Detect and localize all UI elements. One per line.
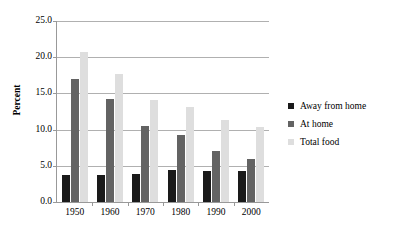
legend-item: Total food bbox=[288, 133, 393, 151]
x-axis-tick-label: 1980 bbox=[161, 207, 201, 217]
bar-1960-series-2 bbox=[115, 74, 123, 202]
x-axis-tick-label: 1970 bbox=[125, 207, 165, 217]
legend-swatch-icon bbox=[288, 103, 294, 109]
bar-1970-series-1 bbox=[141, 126, 149, 202]
y-axis-tickmark bbox=[53, 93, 57, 94]
legend-swatch-icon bbox=[288, 121, 294, 127]
bar-group-1990 bbox=[203, 21, 229, 202]
legend-item: Away from home bbox=[288, 97, 393, 115]
gridline bbox=[57, 57, 269, 58]
legend-label: At home bbox=[300, 119, 333, 129]
x-axis-tickmark bbox=[234, 202, 235, 206]
legend-swatch-icon bbox=[288, 139, 294, 145]
chart-legend: Away from homeAt homeTotal food bbox=[288, 97, 393, 151]
x-axis-tick-label: 1950 bbox=[55, 207, 95, 217]
gridline bbox=[57, 93, 269, 94]
bar-1960-series-0 bbox=[97, 175, 105, 202]
gridline bbox=[57, 166, 269, 167]
x-axis-tick-label: 1990 bbox=[196, 207, 236, 217]
bar-2000-series-2 bbox=[256, 127, 264, 202]
y-axis-tick-labels: 0.05.010.015.020.025.0 bbox=[16, 0, 52, 237]
legend-label: Away from home bbox=[300, 101, 366, 111]
y-axis-tick-label: 5.0 bbox=[18, 160, 52, 170]
y-axis-tickmark bbox=[53, 130, 57, 131]
bar-group-1980 bbox=[168, 21, 194, 202]
y-axis-tick-label: 15.0 bbox=[18, 87, 52, 97]
bar-1950-series-0 bbox=[62, 175, 70, 203]
y-axis-tick-label: 0.0 bbox=[18, 196, 52, 206]
y-axis-tick-label: 20.0 bbox=[18, 51, 52, 61]
bar-2000-series-0 bbox=[238, 171, 246, 202]
bar-1980-series-2 bbox=[186, 107, 194, 202]
bar-group-1970 bbox=[132, 21, 158, 202]
y-axis-tick-label: 25.0 bbox=[18, 15, 52, 25]
bar-1990-series-2 bbox=[221, 120, 229, 202]
x-axis-tick-label: 1960 bbox=[90, 207, 130, 217]
bar-1950-series-1 bbox=[71, 79, 79, 202]
y-axis-tickmark bbox=[53, 166, 57, 167]
x-axis-tickmark bbox=[163, 202, 164, 206]
y-axis-tickmark bbox=[53, 202, 57, 203]
bar-group-1950 bbox=[62, 21, 88, 202]
bar-1970-series-0 bbox=[132, 174, 140, 202]
legend-item: At home bbox=[288, 115, 393, 133]
bar-1990-series-1 bbox=[212, 151, 220, 202]
bar-1980-series-1 bbox=[177, 135, 185, 202]
bar-1960-series-1 bbox=[106, 99, 114, 202]
x-axis-tick-label: 2000 bbox=[231, 207, 271, 217]
bar-2000-series-1 bbox=[247, 159, 255, 202]
gridline bbox=[57, 21, 269, 22]
y-axis-tick-label: 10.0 bbox=[18, 124, 52, 134]
bar-1970-series-2 bbox=[150, 100, 158, 202]
y-axis-tickmark bbox=[53, 57, 57, 58]
plot-area: 195019601970198019902000 bbox=[56, 21, 269, 203]
bar-group-1960 bbox=[97, 21, 123, 202]
x-axis-tickmark bbox=[198, 202, 199, 206]
bar-1990-series-0 bbox=[203, 171, 211, 202]
gridline bbox=[57, 130, 269, 131]
y-axis-tickmark bbox=[53, 21, 57, 22]
x-axis-tickmark bbox=[128, 202, 129, 206]
bar-group-2000 bbox=[238, 21, 264, 202]
legend-label: Total food bbox=[300, 137, 339, 147]
bar-chart: Percent 0.05.010.015.020.025.0 195019601… bbox=[0, 0, 395, 237]
bar-1950-series-2 bbox=[80, 52, 88, 202]
bar-1980-series-0 bbox=[168, 170, 176, 202]
x-axis-tickmark bbox=[92, 202, 93, 206]
